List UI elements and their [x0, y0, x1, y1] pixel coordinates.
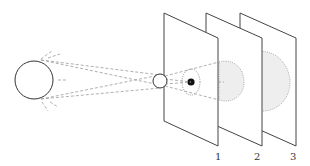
light-source-sphere — [15, 61, 53, 99]
glow-tick-3 — [42, 102, 48, 111]
glow-tick-1 — [41, 51, 52, 59]
aperture-circle — [153, 74, 167, 88]
light-rays — [41, 51, 160, 111]
screen-3-label: 3 — [290, 151, 296, 162]
diagram-canvas: 1 2 3 — [0, 0, 310, 166]
glow-tick-4 — [50, 102, 58, 107]
glow-tick-2 — [48, 54, 60, 58]
screen-1-label: 1 — [215, 151, 221, 162]
ray-bottom-outer — [41, 88, 160, 99]
ray-bottom-cross — [41, 75, 160, 99]
screen-2-label: 2 — [254, 151, 260, 162]
